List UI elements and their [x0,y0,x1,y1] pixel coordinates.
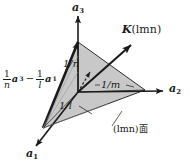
axis-a3-subscript: 3 [79,7,84,15]
edge-term2-denominator: l [39,80,42,90]
plane-caption-word: 面 [139,124,148,134]
edge-term1-subscript: 3 [19,76,23,82]
intercept-label-n: 1/n [63,59,79,69]
plane-caption-indices: (lmn) [113,123,139,134]
k-vector-symbol: K [122,23,132,36]
axis-a2-subscript: 2 [176,88,181,96]
edge-term2-numerator: 1 [36,69,44,80]
edge-term2-fraction: 1 l [36,69,44,89]
plane-triangle [43,42,145,128]
edge-operator: − [25,74,35,84]
axis-a1-subscript: 1 [33,153,38,161]
edge-term1-denominator: n [4,80,10,90]
axis-label-a1: a1 [26,148,38,160]
k-vector-indices: (lmn) [132,23,162,36]
intercept-label-m: 1/m [101,80,120,90]
edge-vector-label: 1 n a3 − 1 l a1 [3,69,57,89]
axis-label-a3: a3 [72,2,84,14]
plane-caption: (lmn)面 [113,124,148,134]
edge-term2-subscript: 1 [52,76,56,82]
edge-term1-vector: a [12,74,18,84]
axis-label-a2: a2 [169,83,181,95]
miller-plane-diagram: a3 a2 a1 K(lmn) 1/n 1/m 1/l (lmn)面 1 n a… [0,0,190,165]
edge-term1-numerator: 1 [3,69,11,80]
k-vector-label: K(lmn) [122,24,161,35]
edge-term1-fraction: 1 n [3,69,11,89]
edge-term2-vector: a [45,74,51,84]
intercept-label-l: 1/l [59,101,72,111]
